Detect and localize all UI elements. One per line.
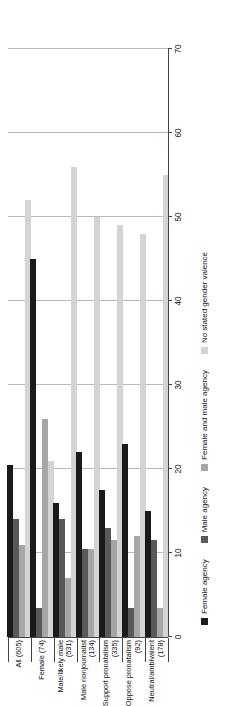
value-tick — [168, 636, 172, 637]
value-tick — [168, 48, 172, 49]
category-label: Male nonjournalist(134) — [80, 640, 97, 700]
legend-label: Male agency — [200, 487, 209, 532]
category-tick — [122, 638, 123, 662]
category-tick — [77, 638, 78, 662]
value-tick — [168, 132, 172, 133]
category-tick — [168, 638, 169, 662]
value-tick-label: 30 — [174, 380, 183, 389]
value-tick — [168, 468, 172, 469]
value-tick-label: 70 — [174, 44, 183, 53]
legend-swatch-icon — [201, 618, 208, 625]
plot-area — [8, 49, 168, 637]
category-label: Oppose pronatalism(92) — [125, 640, 142, 706]
category-tick — [54, 638, 55, 662]
category-label-line: Female (74) — [38, 640, 46, 680]
category-label: Support pronatalism(335) — [102, 640, 119, 706]
legend-label: No stated gender valence — [200, 252, 209, 343]
bar-group — [145, 49, 168, 637]
category-label-line: All (605) — [15, 640, 23, 668]
category-label-line: (92) — [134, 640, 142, 706]
legend-label: Female and male agency — [200, 370, 209, 460]
category-label: Neutral/ambivalent(178) — [148, 640, 165, 702]
category-tick — [31, 638, 32, 662]
value-tick-label: 40 — [174, 296, 183, 305]
value-tick-label: 10 — [174, 548, 183, 557]
bar-group — [31, 49, 54, 637]
legend-item[interactable]: No stated gender valence — [200, 252, 209, 354]
bar[interactable] — [30, 259, 36, 637]
legend-swatch-icon — [201, 347, 208, 354]
bar-group — [99, 49, 122, 637]
value-tick-label: 60 — [174, 128, 183, 137]
value-tick-label: 0 — [174, 635, 183, 640]
value-tick — [168, 216, 172, 217]
legend-label: Female agency — [200, 559, 209, 614]
category-label-line: (134) — [88, 640, 96, 700]
value-axis-line — [168, 49, 169, 637]
category-tick — [8, 638, 9, 662]
category-tick — [99, 638, 100, 662]
category-axis: All (605)Female (74)Male/likely male(531… — [8, 637, 168, 661]
legend-item[interactable]: Male agency — [200, 487, 209, 543]
chart-legend: Female agencyMale agencyFemale and male … — [200, 252, 209, 625]
category-label: Female (74) — [38, 640, 46, 680]
category-tick — [145, 638, 146, 662]
category-label-line: (178) — [157, 640, 165, 702]
category-label-line: (531) — [65, 640, 73, 693]
category-label-line: (335) — [111, 640, 119, 706]
legend-item[interactable]: Female and male agency — [200, 370, 209, 471]
value-tick — [168, 552, 172, 553]
category-label: Male/likely male(531) — [57, 640, 74, 693]
legend-swatch-icon — [201, 464, 208, 471]
value-tick — [168, 384, 172, 385]
bar-group — [54, 49, 77, 637]
legend-swatch-icon — [201, 536, 208, 543]
bar-group — [77, 49, 100, 637]
category-label: All (605) — [15, 640, 23, 668]
bar-group — [8, 49, 31, 637]
value-tick-label: 50 — [174, 212, 183, 221]
legend-item[interactable]: Female agency — [200, 559, 209, 625]
value-tick — [168, 300, 172, 301]
value-tick-label: 20 — [174, 464, 183, 473]
bar-group — [122, 49, 145, 637]
